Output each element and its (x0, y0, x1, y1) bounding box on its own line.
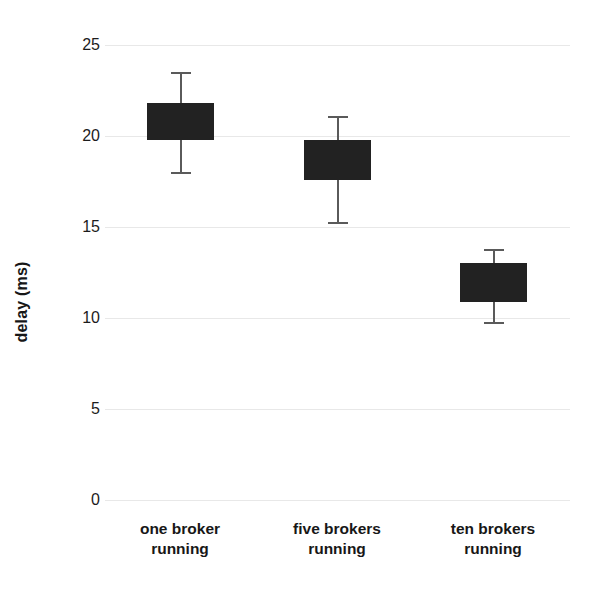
whisker-cap-low-one-broker (171, 172, 191, 174)
box-rect-ten-brokers[interactable] (460, 263, 527, 301)
box-rect-one-broker[interactable] (147, 103, 214, 139)
y-axis-title: delay (ms) (0, 0, 44, 604)
y-axis-title-text: delay (ms) (13, 261, 31, 342)
y-axis-tick-labels: 25 20 15 10 5 0 (52, 0, 100, 604)
y-tick-label-10: 10 (58, 309, 100, 327)
whisker-cap-high-five-brokers (328, 116, 348, 118)
x-axis-label-ten-brokers: ten brokers running (423, 519, 563, 560)
whisker-cap-high-one-broker (171, 72, 191, 74)
y-tick-label-15: 15 (58, 218, 100, 236)
whisker-cap-low-five-brokers (328, 222, 348, 224)
box-plot-chart: delay (ms) 25 20 15 10 5 0 (0, 0, 605, 604)
x-axis-label-one-broker: one broker running (110, 519, 250, 560)
y-tick-label-20: 20 (58, 127, 100, 145)
y-tick-label-25: 25 (58, 36, 100, 54)
box-group-ten-brokers[interactable] (460, 0, 527, 604)
y-tick-label-5: 5 (58, 400, 100, 418)
whisker-cap-high-ten-brokers (484, 249, 504, 251)
box-rect-five-brokers[interactable] (304, 140, 371, 180)
x-axis-label-five-brokers: five brokers running (267, 519, 407, 560)
whisker-cap-low-ten-brokers (484, 322, 504, 324)
box-group-one-broker[interactable] (147, 0, 214, 604)
y-tick-label-0: 0 (58, 491, 100, 509)
plot-area (105, 0, 570, 604)
box-group-five-brokers[interactable] (304, 0, 371, 604)
